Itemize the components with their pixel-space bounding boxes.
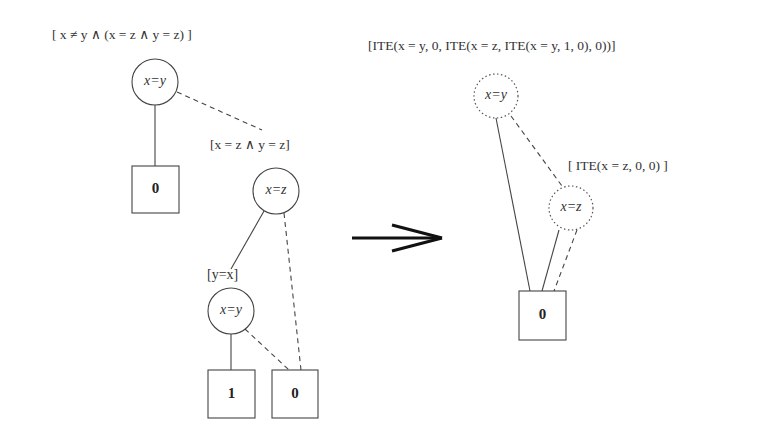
left-inner-false-edge bbox=[245, 329, 289, 370]
right-shared-leaf-value: 0 bbox=[519, 306, 566, 323]
right-root-node-label: x=y bbox=[474, 87, 518, 103]
right-mid-true-edge bbox=[542, 230, 559, 291]
left-root-node-label: x=y bbox=[132, 73, 178, 89]
right-root-true-edge bbox=[496, 118, 530, 291]
right-root-false-edge bbox=[511, 116, 562, 186]
left-mid-true-edge bbox=[231, 211, 264, 269]
left-mid-false-edge bbox=[284, 213, 301, 370]
right-mid-node-label: x=z bbox=[549, 199, 593, 215]
transform-arrow-icon bbox=[352, 225, 442, 251]
right-mid-false-edge bbox=[554, 230, 577, 291]
left-mid-node-label: x=z bbox=[253, 182, 299, 198]
left-inner-node-label: x=y bbox=[208, 302, 254, 318]
left-root-label: [ x ≠ y ∧ (x = z ∧ y = z) ] bbox=[52, 26, 192, 43]
left-root-leaf-value: 0 bbox=[132, 180, 179, 197]
left-root-false-edge bbox=[177, 92, 262, 130]
left-inner-label: [y=x] bbox=[207, 267, 238, 283]
right-subtree-label: [ ITE(x = z, 0, 0) ] bbox=[568, 158, 668, 174]
left-subtree-label: [x = z ∧ y = z] bbox=[210, 136, 290, 153]
left-one-leaf-value: 1 bbox=[208, 385, 255, 402]
diagram-canvas bbox=[0, 0, 782, 447]
right-root-label: [ITE(x = y, 0, ITE(x = z, ITE(x = y, 1, … bbox=[368, 38, 616, 54]
left-zero-leaf-value: 0 bbox=[272, 385, 318, 402]
